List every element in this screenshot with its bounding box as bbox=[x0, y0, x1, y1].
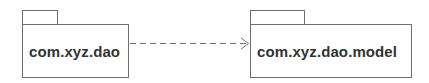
uml-package-diagram: com.xyz.dao com.xyz.dao.model bbox=[0, 0, 429, 83]
dependency-arrow bbox=[0, 0, 429, 83]
